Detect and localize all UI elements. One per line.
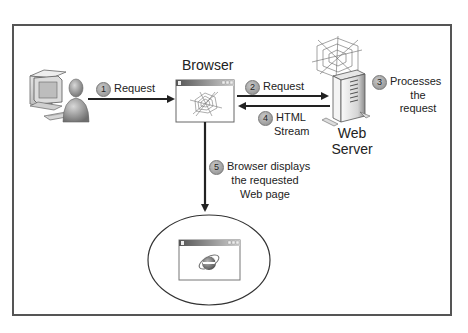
step-3-text-line2: the [388,89,448,102]
web-server-label-line1: Web [326,125,378,141]
step-5-text-line1: Browser displays [227,160,310,172]
step-2-badge: 2 [245,80,260,95]
step-1-badge: 1 [96,82,111,97]
step-4-text-line1: HTML [276,111,306,123]
step-2-label: 2Request [245,80,304,95]
browser-window-web-icon [176,80,234,122]
step-5-text-line3: Web page [222,188,308,201]
step-4-label: 4HTML [258,111,306,126]
step-1-text: Request [114,82,155,94]
step-1-label: 1Request [96,82,155,97]
user-computer-icon [30,70,89,122]
step-3-badge: 3 [372,75,387,90]
browser-label: Browser [182,57,233,73]
step-4-badge: 4 [258,111,273,126]
web-server-label-line2: Server [326,141,378,157]
step-5-label: 5Browser displays [209,160,310,175]
step-3-text-line1: Processes [390,75,441,87]
server-tower-web-icon [312,36,370,126]
browser-window-ie-icon [179,240,240,280]
step-3-text-line3: request [388,102,448,115]
step-3-label: 3Processes [372,75,441,90]
step-5-text-line2: the requested [222,174,308,187]
step-5-badge: 5 [209,160,224,175]
step-4-text-line2: Stream [274,125,309,138]
step-2-text: Request [263,80,304,92]
